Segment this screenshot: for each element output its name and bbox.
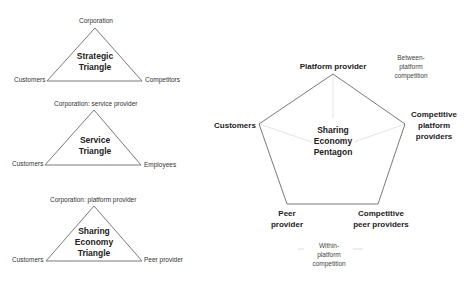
strategic-left-label: Customers xyxy=(14,76,45,83)
within-platform-note: Within- platform competition xyxy=(305,241,353,268)
service-right-label: Employees xyxy=(144,161,176,168)
title-line: Pentagon xyxy=(306,147,360,158)
label-line: provider xyxy=(264,219,310,230)
pentagon-bottom-left-label: Peer provider xyxy=(264,208,310,230)
pentagon-top-label: Platform provider xyxy=(290,61,376,72)
label-line: platform xyxy=(404,120,464,131)
strategic-right-label: Competitors xyxy=(145,76,180,83)
note-line: Within- xyxy=(305,241,353,250)
label-line: Competitive xyxy=(348,208,414,219)
service-left-label: Customers xyxy=(12,160,43,167)
sharing-right-label: Peer provider xyxy=(144,256,183,263)
title-line: Service xyxy=(70,135,120,146)
title-line: Economy xyxy=(306,136,360,147)
label-line: Competitive xyxy=(404,109,464,120)
title-line: Triangle xyxy=(70,62,120,73)
pentagon-bottom-right-label: Competitive peer providers xyxy=(348,208,414,230)
service-top-label: Corporation: service provider xyxy=(54,100,137,107)
pentagon-right-label: Competitive platform providers xyxy=(404,109,464,142)
label-line: Peer xyxy=(264,208,310,219)
title-line: Triangle xyxy=(64,248,124,259)
between-platform-note: Between- platform competition xyxy=(386,53,436,80)
note-line: platform xyxy=(305,250,353,259)
strategic-top-label: Corporation xyxy=(79,17,113,24)
title-line: Economy xyxy=(64,237,124,248)
title-line: Triangle xyxy=(70,146,120,157)
sharing-left-label: Customers xyxy=(12,256,43,263)
sharing-top-label: Corporation: platform provider xyxy=(50,196,136,203)
note-line: competition xyxy=(386,71,436,80)
strategic-triangle-title: Strategic Triangle xyxy=(70,51,120,73)
note-line: platform xyxy=(386,62,436,71)
label-line: peer providers xyxy=(348,219,414,230)
title-line: Sharing xyxy=(306,125,360,136)
pentagon-left-label: Customers xyxy=(212,120,258,131)
note-line: Between- xyxy=(386,53,436,62)
pentagon-center-title: Sharing Economy Pentagon xyxy=(306,125,360,158)
sharing-economy-triangle-title: Sharing Economy Triangle xyxy=(64,226,124,259)
title-line: Strategic xyxy=(70,51,120,62)
label-line: providers xyxy=(404,131,464,142)
note-line: competition xyxy=(305,259,353,268)
service-triangle-title: Service Triangle xyxy=(70,135,120,157)
title-line: Sharing xyxy=(64,226,124,237)
